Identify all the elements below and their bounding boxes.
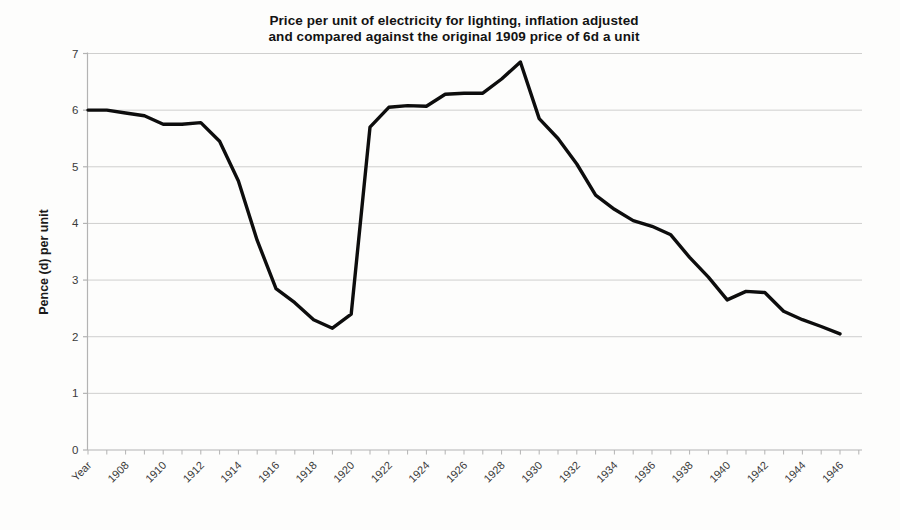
y-tick-label: 0 bbox=[72, 444, 78, 456]
electricity-price-chart: Price per unit of electricity for lighti… bbox=[0, 0, 900, 530]
y-tick-label: 4 bbox=[72, 217, 79, 229]
y-tick-label: 3 bbox=[72, 274, 78, 286]
y-tick-label: 6 bbox=[72, 104, 78, 116]
x-tick-label: 1934 bbox=[594, 459, 620, 485]
chart-title-line-1: Price per unit of electricity for lighti… bbox=[0, 13, 900, 29]
x-tick-label: 1910 bbox=[143, 459, 169, 485]
x-tick-label: 1936 bbox=[632, 459, 658, 485]
x-tick-label: 1930 bbox=[519, 459, 545, 485]
price-line bbox=[88, 62, 840, 334]
x-tick-label: 1920 bbox=[331, 459, 357, 485]
x-tick-label: 1924 bbox=[406, 459, 432, 485]
x-tick-label: 1922 bbox=[368, 459, 394, 485]
x-tick-label: 1940 bbox=[707, 459, 733, 485]
x-tick-label: 1944 bbox=[782, 459, 808, 485]
x-tick-label: Year bbox=[69, 459, 93, 483]
x-tick-label: 1916 bbox=[256, 459, 282, 485]
chart-title-line-2: and compared against the original 1909 p… bbox=[0, 29, 900, 45]
x-tick-label: 1926 bbox=[444, 459, 470, 485]
y-tick-label: 5 bbox=[72, 161, 78, 173]
x-tick-label: 1912 bbox=[180, 459, 206, 485]
x-tick-label: 1938 bbox=[669, 459, 695, 485]
x-tick-label: 1914 bbox=[218, 459, 244, 485]
y-tick-label: 7 bbox=[72, 48, 78, 60]
y-tick-label: 2 bbox=[72, 331, 78, 343]
x-tick-label: 1946 bbox=[820, 459, 846, 485]
x-tick-label: 1932 bbox=[556, 459, 582, 485]
x-tick-label: 1928 bbox=[481, 459, 507, 485]
plot-area: 01234567Year1908191019121914191619181920… bbox=[0, 0, 900, 530]
y-axis-title: Pence (d) per unit bbox=[37, 209, 51, 315]
x-tick-label: 1942 bbox=[744, 459, 770, 485]
x-tick-label: 1918 bbox=[293, 459, 319, 485]
y-tick-label: 1 bbox=[72, 387, 78, 399]
chart-title: Price per unit of electricity for lighti… bbox=[0, 13, 900, 45]
x-tick-label: 1908 bbox=[105, 459, 131, 485]
